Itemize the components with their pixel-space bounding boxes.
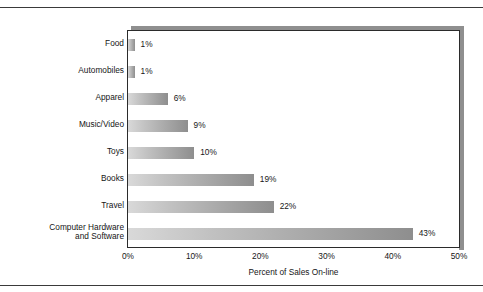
bar[interactable] [128,93,168,105]
category-axis-labels: FoodAutomobilesApparelMusic/VideoToysBoo… [6,30,124,248]
category-label-line: Music/Video [6,120,124,130]
bar-row[interactable]: 22% [128,193,459,220]
bar[interactable] [128,147,194,159]
bar-row[interactable]: 9% [128,112,459,139]
category-label: Automobiles [6,66,124,76]
category-label-line: Apparel [6,93,124,103]
bar-value-label: 22% [280,200,297,213]
category-label-line: Travel [6,201,124,211]
bottom-divider-rule [0,285,483,286]
bar-row[interactable]: 6% [128,85,459,112]
bar-series: 1%1%6%9%10%19%22%43% [128,31,459,247]
category-label: Toys [6,147,124,157]
category-label-line: Toys [6,147,124,157]
bar-value-label: 1% [141,65,153,78]
bar[interactable] [128,66,135,78]
x-axis-tick: 40% [384,251,401,261]
category-label-line: Automobiles [6,66,124,76]
bar[interactable] [128,228,413,240]
category-label: Food [6,39,124,49]
bar-row[interactable]: 43% [128,220,459,247]
category-label: Computer Hardwareand Software [6,223,124,242]
bar-value-label: 10% [200,146,217,159]
bar-row[interactable]: 1% [128,58,459,85]
bar-chart-figure: FoodAutomobilesApparelMusic/VideoToysBoo… [0,8,483,284]
x-axis-tick: 20% [252,251,269,261]
category-label: Apparel [6,93,124,103]
x-axis-title: Percent of Sales On-line [127,267,460,277]
x-axis-tick: 30% [318,251,335,261]
bar-row[interactable]: 19% [128,166,459,193]
bar-value-label: 1% [141,38,153,51]
x-axis-tick: 10% [186,251,203,261]
category-label: Books [6,174,124,184]
bar-value-label: 19% [260,173,277,186]
x-axis-tick-labels: 0%10%20%30%40%50% [0,251,483,265]
bar[interactable] [128,201,274,213]
bar-row[interactable]: 10% [128,139,459,166]
bar-value-label: 43% [419,227,436,240]
category-label: Music/Video [6,120,124,130]
bar-row[interactable]: 1% [128,31,459,58]
category-label-line: Food [6,39,124,49]
x-axis-tick: 50% [451,251,468,261]
bar-value-label: 9% [194,119,206,132]
bar-value-label: 6% [174,92,186,105]
bar[interactable] [128,39,135,51]
category-label-line: Books [6,174,124,184]
bar[interactable] [128,120,188,132]
bar[interactable] [128,174,254,186]
category-label: Travel [6,201,124,211]
category-label-line: and Software [6,232,124,242]
x-axis-tick: 0% [122,251,134,261]
